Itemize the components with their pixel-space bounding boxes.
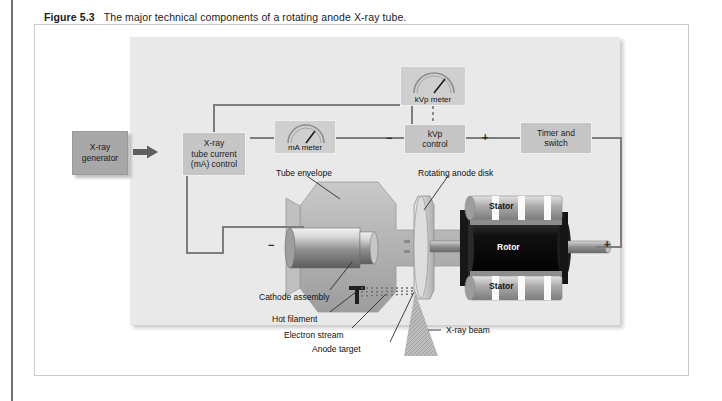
label-cathode-assembly: Cathode assembly (259, 292, 329, 302)
timer-line1: Timer and (537, 128, 575, 139)
wire-cathode-up (222, 226, 224, 254)
wire-anode-right-down (620, 137, 622, 248)
label-stator-bottom: Stator (489, 281, 514, 291)
label-hot-filament: Hot filament (272, 314, 317, 324)
label-electron-stream: Electron stream (284, 330, 344, 340)
ma-control-line1: X-ray (204, 138, 224, 149)
wire-hv-bus-far-right (590, 137, 622, 139)
ma-meter: mA meter (274, 120, 336, 154)
wire-cathode-down (186, 176, 188, 254)
wire-cathode-into-minus (222, 226, 304, 228)
wire-kvp-meter-link (432, 106, 434, 124)
timer-switch-box: Timer and switch (520, 122, 592, 154)
label-stator-top: Stator (489, 201, 514, 211)
wire-cathode-right (186, 252, 224, 254)
kvp-control-box: kVp control (404, 124, 466, 154)
wire-ma-control-up (213, 104, 215, 134)
kvp-minus-sign: − (386, 133, 392, 144)
ma-control-box: X-ray tube current (mA) control (182, 132, 246, 176)
kvp-meter-label: kVp meter (401, 95, 465, 104)
label-rotor: Rotor (497, 242, 520, 252)
cathode-minus-sign: − (268, 240, 274, 251)
label-tube-envelope: Tube envelope (276, 168, 332, 178)
ma-control-line2: tube current (191, 149, 236, 160)
wire-top-bus (213, 104, 413, 106)
timer-line2: switch (544, 138, 568, 149)
xray-tube-artwork (0, 0, 722, 401)
label-rotating-anode-disk: Rotating anode disk (418, 168, 493, 178)
screenshot-root: Figure 5.3 The major technical component… (0, 0, 722, 401)
wire-kvp-control-down (411, 104, 413, 126)
ma-meter-label: mA meter (275, 143, 335, 152)
label-xray-beam: X-ray beam (446, 325, 490, 335)
kvp-plus-sign: + (482, 132, 488, 143)
ma-control-line3: (mA) control (191, 159, 237, 170)
wire-hv-bus-right (464, 137, 522, 139)
kvp-meter-gauge-icon (401, 68, 467, 96)
kvp-meter: kVp meter (400, 66, 466, 106)
anode-plus-sign: + (604, 239, 610, 250)
label-anode-target: Anode target (312, 344, 361, 354)
kvp-control-line2: control (422, 139, 448, 150)
kvp-control-line1: kVp (428, 129, 443, 140)
